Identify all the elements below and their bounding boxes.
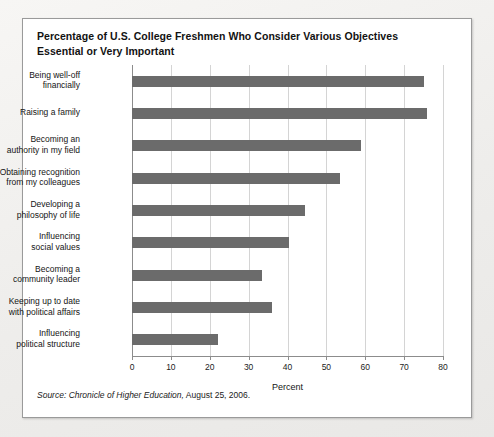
source-publication: Source: Chronicle of Higher Education, [37,390,184,400]
category-label: Becoming a community leader [0,264,80,285]
bar [132,270,262,281]
bar-row [132,140,443,151]
tick-mark-70 [404,356,405,360]
x-tick-label: 10 [166,362,175,372]
category-label: Influencing political structure [0,328,80,349]
tick-mark-20 [210,356,211,360]
source-note: Source: Chronicle of Higher Education, A… [37,390,250,400]
x-tick-label: 70 [399,362,408,372]
bar [132,205,305,216]
plot-area [132,65,443,356]
x-tick-label: 30 [244,362,253,372]
x-tick-label: 60 [361,362,370,372]
tick-mark-50 [326,356,327,360]
bar-row [132,76,443,87]
category-label: Becoming an authority in my field [0,134,80,155]
bar [132,76,424,87]
bar-row [132,270,443,281]
tick-mark-0 [132,356,133,360]
category-label: Being well-off financially [0,70,80,91]
bar [132,302,272,313]
category-label: Raising a family [0,107,80,118]
category-label: Developing a philosophy of life [0,199,80,220]
bar-row [132,237,443,248]
tick-mark-60 [365,356,366,360]
tick-mark-40 [288,356,289,360]
bar-row [132,173,443,184]
bar [132,173,340,184]
tick-mark-30 [249,356,250,360]
bar [132,334,218,345]
bar [132,237,289,248]
x-tick-label: 0 [130,362,135,372]
bar [132,140,361,151]
bar-row [132,108,443,119]
x-tick-label: 50 [322,362,331,372]
bar-row [132,302,443,313]
x-tick-label: 80 [438,362,447,372]
page-background: Percentage of U.S. College Freshmen Who … [0,0,494,437]
category-label: Obtaining recognition from my colleagues [0,167,80,188]
bar [132,108,427,119]
category-label: Influencing social values [0,231,80,252]
gridline-80 [443,65,444,356]
category-label: Keeping up to date with political affair… [0,296,80,317]
page-title: Percentage of U.S. College Freshmen Who … [37,29,437,59]
x-tick-label: 40 [283,362,292,372]
x-tick-label: 20 [205,362,214,372]
source-date: August 25, 2006. [184,390,250,400]
bar-row [132,334,443,345]
tick-mark-80 [443,356,444,360]
chart-card: Percentage of U.S. College Freshmen Who … [22,18,472,418]
bar-row [132,205,443,216]
tick-mark-10 [171,356,172,360]
